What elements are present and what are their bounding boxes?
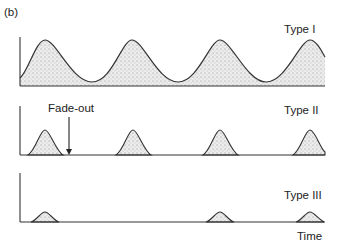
type3-peaks [31,212,324,222]
type2-peak-4 [293,130,325,155]
epidemic-types-diagram: (b) Type I Fade-out Type II Type III [0,0,342,249]
type3-peak-2 [206,212,234,222]
type3-peak-1 [31,212,59,222]
type2-peaks [28,130,325,155]
type1-fill [20,40,325,86]
type3-peak-3 [296,212,324,222]
panel-type-1: Type I [20,23,325,86]
x-axis-label: Time [297,230,322,242]
type2-peak-2 [116,130,151,155]
panel-type-2: Fade-out Type II [20,102,325,155]
type3-label: Type III [284,189,322,201]
fade-out-label: Fade-out [48,102,95,114]
type2-label: Type II [284,104,319,116]
panel-label: (b) [4,6,18,18]
fade-out-arrowhead [66,149,72,155]
type2-peak-1 [28,130,63,155]
type1-label: Type I [284,23,315,35]
panel-type-3: Type III Time [20,173,325,242]
type2-peak-3 [203,130,238,155]
